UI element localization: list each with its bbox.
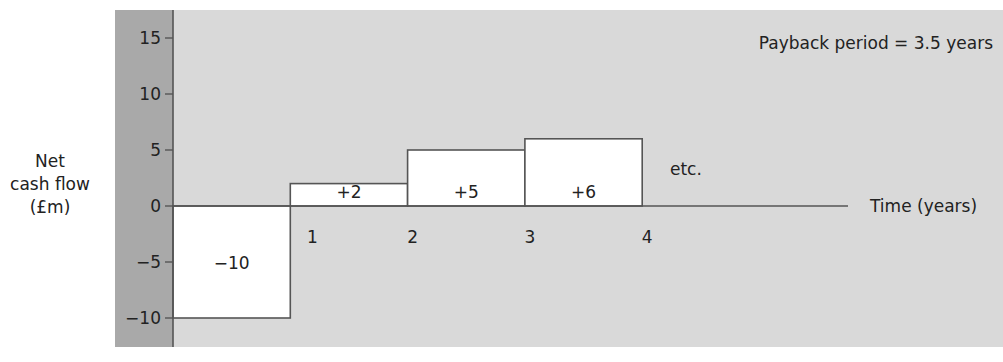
bar-label-3: +5 [454, 182, 479, 202]
y-tick-label: 0 [150, 196, 161, 216]
y-tick-label: 10 [139, 84, 161, 104]
x-axis-label: Time (years) [869, 196, 977, 216]
y-tick-label: 15 [139, 28, 161, 48]
bar-label-1: −10 [214, 253, 250, 273]
y-tick-label: 5 [150, 140, 161, 160]
x-tick-label: 4 [642, 227, 653, 247]
payback-chart: −10+2+5+6151050−5−101234Time (years)etc.… [0, 0, 1003, 362]
etc-note: etc. [670, 159, 702, 179]
bar-label-2: +2 [336, 182, 361, 202]
y-axis-label-line-3: (£m) [0, 196, 100, 219]
y-axis-strip [115, 10, 173, 347]
y-tick-label: −10 [125, 308, 161, 328]
x-tick-label: 1 [307, 227, 318, 247]
x-tick-label: 3 [524, 227, 535, 247]
payback-period-annotation: Payback period = 3.5 years [759, 33, 993, 53]
x-tick-label: 2 [407, 227, 418, 247]
y-axis-label-line-1: Net [0, 150, 100, 173]
y-tick-label: −5 [136, 252, 161, 272]
y-axis-label: Net cash flow (£m) [0, 150, 100, 219]
y-axis-label-line-2: cash flow [0, 173, 100, 196]
bar-label-4: +6 [571, 182, 596, 202]
